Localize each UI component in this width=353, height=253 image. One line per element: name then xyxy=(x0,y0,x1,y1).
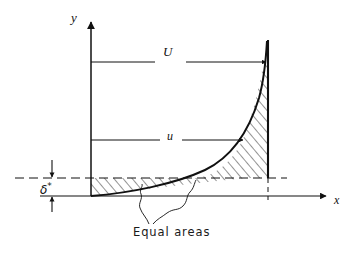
figure-canvas xyxy=(0,0,353,253)
y-axis-label: y xyxy=(71,11,77,24)
leader-line-left-area xyxy=(140,184,149,224)
delta-superscript: * xyxy=(47,181,52,191)
local-velocity-label: u xyxy=(167,130,173,142)
boundary-layer-figure: y x U u δ* Equal areas xyxy=(0,0,353,253)
equal-areas-label: Equal areas xyxy=(133,227,210,239)
freestream-velocity-label: U xyxy=(163,45,172,58)
x-axis-label: x xyxy=(334,194,339,206)
displacement-thickness-label: δ* xyxy=(40,182,52,196)
